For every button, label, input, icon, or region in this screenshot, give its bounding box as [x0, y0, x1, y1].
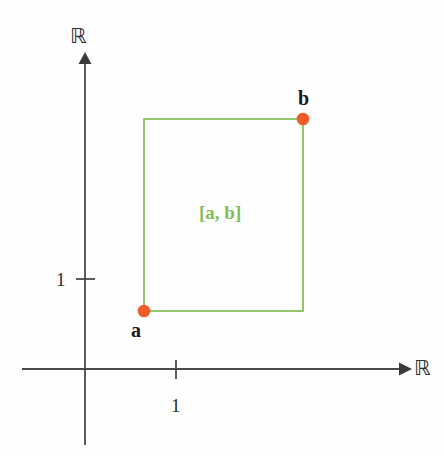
point-a-dot — [138, 305, 151, 318]
point-a-label: a — [131, 320, 141, 340]
x-axis-label: ℝ — [414, 358, 431, 379]
interval-diagram-figure: ℝ ℝ 1 1 [a, b] a b — [0, 0, 444, 456]
y-axis-label: ℝ — [70, 26, 87, 47]
x-axis-tick-label-1: 1 — [171, 396, 181, 415]
diagram-canvas — [0, 0, 444, 456]
interval-region-label: [a, b] — [199, 203, 241, 222]
y-axis-tick-label-1: 1 — [56, 270, 66, 289]
x-axis-arrowhead — [399, 363, 412, 376]
point-b-dot — [297, 113, 310, 126]
y-axis-arrowhead — [79, 52, 92, 64]
point-b-label: b — [298, 88, 309, 108]
